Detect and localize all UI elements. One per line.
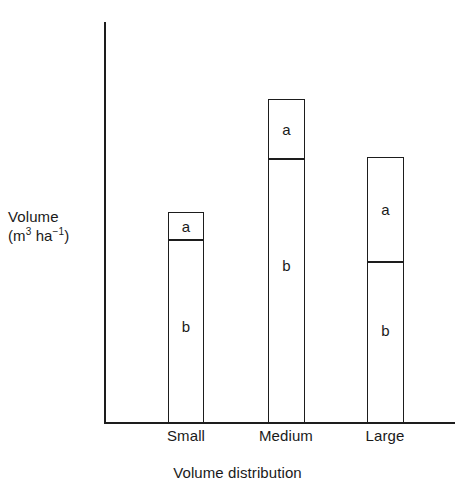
y-axis-title-line1: Volume bbox=[8, 207, 100, 226]
y-axis-unit-exponent-inverse: −1 bbox=[53, 226, 65, 237]
bar-medium-segment-a[interactable]: a bbox=[268, 99, 305, 159]
y-axis-title: Volume (m3 ha−1) bbox=[8, 207, 100, 245]
y-axis-unit-mid: ha bbox=[31, 227, 52, 244]
x-axis-title: Volume distribution bbox=[0, 464, 475, 481]
x-axis-tick-label-medium: Medium bbox=[241, 427, 331, 444]
bar-large[interactable]: a b bbox=[367, 157, 404, 423]
chart-figure: Volume (m3 ha−1) a b a b a b Small Mediu… bbox=[0, 0, 475, 498]
x-axis-tick-label-large: Large bbox=[340, 427, 430, 444]
bar-small-segment-b-label: b bbox=[169, 319, 203, 334]
bar-large-segment-a[interactable]: a bbox=[367, 157, 404, 262]
bar-small-segment-b[interactable]: b bbox=[168, 240, 204, 423]
y-axis-title-line2: (m3 ha−1) bbox=[8, 226, 100, 245]
x-axis-tick-label-small: Small bbox=[141, 427, 231, 444]
bar-medium-segment-a-label: a bbox=[282, 122, 290, 137]
bar-small[interactable]: a b bbox=[168, 212, 204, 423]
bar-large-segment-a-label: a bbox=[381, 202, 389, 217]
bar-small-segment-a-label: a bbox=[182, 219, 190, 234]
bar-small-segment-a[interactable]: a bbox=[168, 212, 204, 240]
bar-large-segment-b[interactable]: b bbox=[367, 262, 404, 423]
bar-medium[interactable]: a b bbox=[268, 99, 305, 423]
bar-large-segment-b-label: b bbox=[368, 323, 403, 338]
bar-medium-segment-b[interactable]: b bbox=[268, 159, 305, 423]
bar-medium-segment-b-label: b bbox=[269, 258, 304, 273]
y-axis-unit-prefix: (m bbox=[8, 227, 26, 244]
y-axis-line bbox=[104, 22, 106, 424]
y-axis-unit-suffix: ) bbox=[64, 227, 69, 244]
